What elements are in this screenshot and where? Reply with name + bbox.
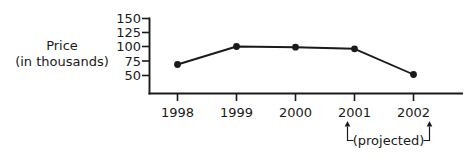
x-axis-labels: 1998 1999 2000 2001 2002 [161,105,430,120]
x-tick-label-1998: 1998 [161,105,194,120]
x-tick-label-2002: 2002 [397,105,430,120]
y-tick-label-125: 125 [116,25,141,40]
projected-annotation: (projected) [345,121,433,148]
price-series [174,43,417,78]
x-tick-label-1999: 1999 [220,105,253,120]
x-tick-label-2001: 2001 [338,105,371,120]
arrow-up-icon-2002 [427,121,433,127]
chart-plot-area: 150 125 100 75 50 1998 1999 [0,0,466,163]
y-tick-label-150: 150 [116,11,141,26]
price-line-chart: Price (in thousands) 150 125 100 75 50 [0,0,466,163]
projected-label: (projected) [353,133,425,148]
bracket-right [424,127,430,141]
arrow-up-icon-2001 [345,121,351,127]
data-point-1999 [233,43,240,50]
y-tick-label-100: 100 [116,39,141,54]
y-tick-label-75: 75 [124,54,141,69]
y-axis: 150 125 100 75 50 [116,11,150,94]
data-point-1998 [174,61,181,68]
data-point-2001 [351,45,358,52]
data-point-2002 [410,71,417,78]
x-tick-label-2000: 2000 [279,105,312,120]
data-point-2000 [292,44,299,51]
series-line-price [178,47,414,75]
x-axis-ticks [178,94,414,102]
y-tick-label-50: 50 [124,68,141,83]
